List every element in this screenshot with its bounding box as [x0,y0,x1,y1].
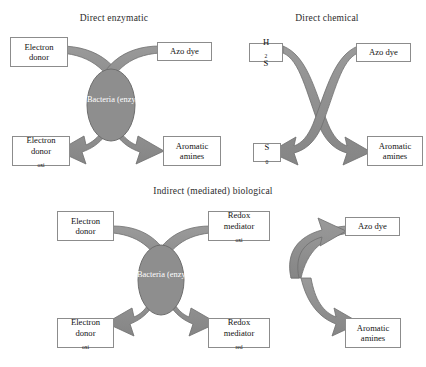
node-aromatic-amines-p3: Aromatic amines [345,318,401,348]
bacteria-ellipse-p3 [138,245,184,315]
diagram-canvas: Direct enzymatic Direct chemical Indirec… [0,0,426,367]
node-line1: Azo dye [170,46,199,57]
node-line1: Azo dye [369,47,398,58]
node-subscript: oxi [37,162,44,168]
node-line1: Electron [24,42,53,53]
node-line2: donor [71,226,100,237]
node-subscript: red [235,344,242,350]
node-line1: Aromatic [379,141,411,152]
node-aromatic-amines-p2: Aromatic amines [367,136,423,166]
node-line2-wrap: mediatorred [224,328,255,349]
node-s0-p2: S0 [253,143,281,162]
formula-s: S [265,142,270,153]
panel-title-direct-enzymatic: Direct enzymatic [0,13,228,23]
node-line1: Redox [224,317,255,328]
node-azo-dye-p1: Azo dye [157,42,212,61]
node-line2-wrap: mediatoroxi [224,221,255,242]
node-subscript: oxi [82,344,89,350]
node-h2s-p2: H2S [249,43,283,62]
bacteria-ellipse-p1 [87,69,135,141]
node-line1: Electron [26,135,55,146]
node-electron-donor-oxi-p1: Electron donoroxi [12,136,70,166]
node-line1: Aromatic [176,141,208,152]
node-electron-donor-oxi-p3: Electron donoroxi [57,318,114,348]
node-line2: amines [379,151,411,162]
node-line2: donor [24,52,53,63]
node-redox-mediator-oxi-p3: Redox mediatoroxi [208,211,270,241]
node-redox-mediator-red-p3: Redox mediatorred [208,318,270,348]
panel-title-direct-chemical: Direct chemical [228,13,426,23]
node-line2: donor [26,146,55,157]
node-aromatic-amines-p1: Aromatic amines [163,136,221,166]
formula-s: S [263,58,269,69]
node-electron-donor-p3: Electron donor [57,211,114,241]
node-line2: amines [176,151,208,162]
panel-title-indirect-mediated-biological: Indirect (mediated) biological [0,186,426,196]
node-electron-donor-p1: Electron donor [10,37,68,67]
formula-subscript: 0 [266,158,269,164]
node-line2-wrap: donoroxi [26,146,55,167]
node-subscript: oxi [235,237,242,243]
node-line1: Azo dye [358,221,387,232]
node-line1: Electron [71,317,100,328]
node-azo-dye-p2: Azo dye [356,43,411,62]
node-line1: Redox [224,210,255,221]
formula-h: H [263,37,269,48]
node-line2: amines [357,333,389,344]
node-line1: Aromatic [357,323,389,334]
node-line1: Electron [71,216,100,227]
arrow-p3-mediator-oxi-in [290,218,346,278]
node-azo-dye-p3: Azo dye [345,217,400,236]
node-line2: mediator [224,221,255,232]
node-line2: donor [71,328,100,339]
node-line2-wrap: donoroxi [71,328,100,349]
node-line2: mediator [224,328,255,339]
